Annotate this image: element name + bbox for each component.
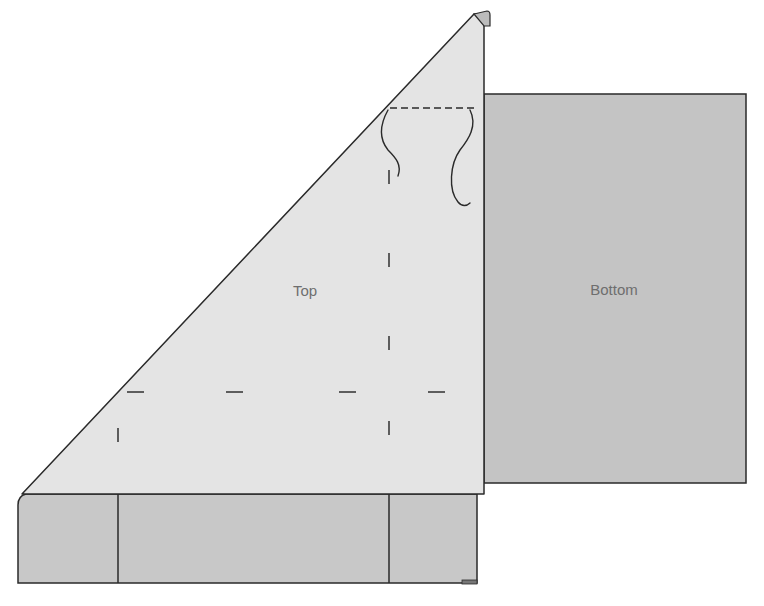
bottom-panel: [484, 94, 746, 483]
base-foot: [462, 580, 477, 584]
pattern-diagram: [0, 0, 764, 606]
top-triangle: [22, 14, 484, 494]
base-strip: [18, 494, 477, 583]
